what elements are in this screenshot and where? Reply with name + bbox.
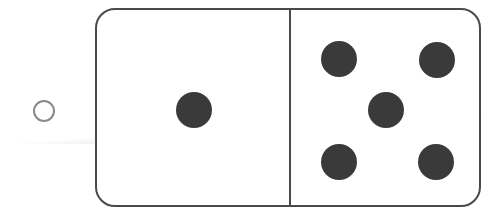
pip <box>321 144 357 180</box>
answer-bubble[interactable] <box>33 100 55 122</box>
domino-half-left <box>97 10 291 205</box>
pip <box>419 42 455 78</box>
worksheet-canvas: insert sheet a worksheet <box>0 0 502 214</box>
pip <box>368 92 404 128</box>
pip <box>176 92 212 128</box>
pip <box>418 144 454 180</box>
pip <box>321 41 357 77</box>
domino-tile[interactable] <box>95 8 481 207</box>
domino-half-right <box>291 10 483 205</box>
